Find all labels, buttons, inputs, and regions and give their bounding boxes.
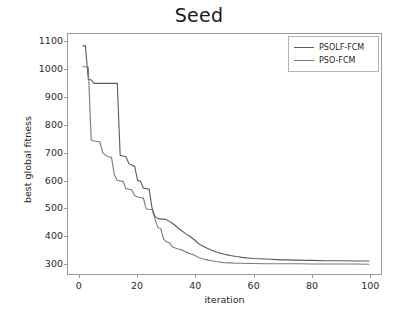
x-tick-mark <box>79 275 80 278</box>
y-tick-label: 400 <box>27 231 63 241</box>
y-tick-label: 700 <box>27 148 63 158</box>
x-tick-label: 0 <box>59 280 99 291</box>
chart-legend: PSOLF-FCM PSO-FCM <box>288 36 379 72</box>
y-tick-label: 600 <box>27 176 63 186</box>
legend-label-pso-fcm: PSO-FCM <box>319 56 355 66</box>
chart-figure: Seed best global fitness 300400500600700… <box>0 0 398 315</box>
x-tick-label: 60 <box>234 280 274 291</box>
legend-swatch-psolf-fcm <box>294 47 314 48</box>
y-tick-label: 900 <box>27 92 63 102</box>
y-tick-label: 1100 <box>27 36 63 46</box>
y-axis-tick-labels: 30040050060070080090010001100 <box>22 33 63 275</box>
legend-label-psolf-fcm: PSOLF-FCM <box>319 43 364 53</box>
x-tick-mark <box>195 275 196 278</box>
legend-swatch-pso-fcm <box>294 60 314 61</box>
x-tick-label: 100 <box>350 280 390 291</box>
x-tick-label: 20 <box>117 280 157 291</box>
legend-item-pso-fcm[interactable]: PSO-FCM <box>294 54 374 67</box>
x-axis-tick-marks <box>67 275 382 279</box>
y-tick-label: 300 <box>27 259 63 269</box>
x-tick-mark <box>312 275 313 278</box>
legend-item-psolf-fcm[interactable]: PSOLF-FCM <box>294 41 374 54</box>
y-tick-label: 800 <box>27 120 63 130</box>
y-tick-label: 1000 <box>27 64 63 74</box>
x-tick-mark <box>137 275 138 278</box>
chart-title: Seed <box>0 3 398 27</box>
x-axis-label: iteration <box>67 294 382 305</box>
series-line-pso-fcm <box>82 67 369 265</box>
x-axis-tick-labels: 020406080100 <box>67 280 382 294</box>
x-tick-label: 40 <box>175 280 215 291</box>
y-tick-label: 500 <box>27 203 63 213</box>
x-tick-mark <box>254 275 255 278</box>
series-line-psolf-fcm <box>82 46 369 261</box>
x-tick-mark <box>370 275 371 278</box>
x-tick-label: 80 <box>292 280 332 291</box>
